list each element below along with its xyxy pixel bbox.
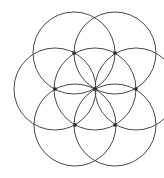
center-node: [93, 87, 96, 90]
right-node: [134, 87, 137, 90]
top-right-node: [113, 51, 116, 54]
bottom-node: [113, 123, 116, 126]
left-node: [53, 87, 56, 90]
bottom-left-node: [73, 123, 76, 126]
overlapping-circles-figure: Seven overlapping circles geometric figu…: [0, 0, 164, 178]
figure-background: [0, 0, 164, 178]
top-node: [72, 51, 75, 54]
